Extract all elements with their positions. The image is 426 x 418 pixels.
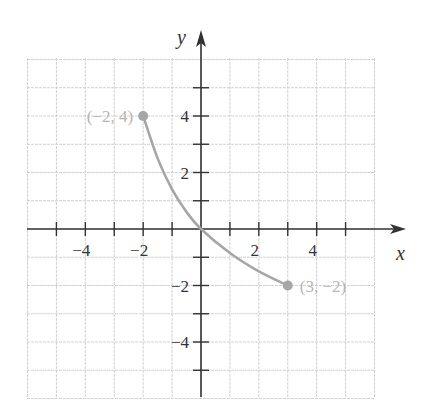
x-tick-label: 2 (251, 241, 260, 260)
y-tick-label: −2 (171, 277, 189, 296)
x-tick-label: −4 (72, 241, 91, 260)
axes: x y (27, 26, 406, 397)
y-axis-label: y (175, 26, 186, 49)
endpoint-dot (138, 111, 148, 121)
x-tick-label: 4 (308, 241, 317, 260)
graph: x y −4−22442−2−4 (−2, 4)(3, −2) (0, 0, 426, 418)
point-label: (−2, 4) (87, 107, 133, 126)
x-axis-label: x (395, 242, 405, 264)
y-tick-label: −4 (171, 333, 190, 352)
y-tick-label: 2 (181, 164, 190, 183)
endpoint-dot (283, 281, 293, 291)
y-tick-label: 4 (181, 107, 190, 126)
x-tick-label: −2 (130, 241, 148, 260)
point-label: (3, −2) (300, 277, 346, 296)
